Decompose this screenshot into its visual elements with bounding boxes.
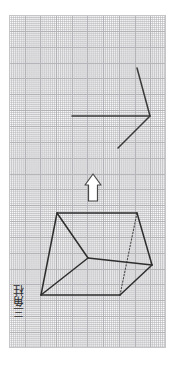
up-arrow-icon (85, 174, 101, 201)
fold-line-figure (72, 68, 150, 148)
prism-edge-left-rear (41, 213, 57, 295)
fold-upper-diagonal (137, 68, 150, 116)
worksheet-canvas: 三角柱 (0, 0, 178, 366)
triangular-prism-figure (41, 213, 152, 295)
prism-label-text: 三角柱 (13, 272, 27, 318)
prism-edge-left-front (57, 213, 88, 258)
prism-edge-right-front (120, 265, 152, 295)
prism-edge-right-rear (137, 213, 152, 265)
fold-lower-diagonal (118, 116, 150, 148)
prism-edge-left-base (41, 258, 88, 295)
prism-edge-mid-ridge (88, 258, 152, 265)
prism-hidden-edge (120, 213, 137, 295)
up-arrow-outline (85, 174, 101, 201)
